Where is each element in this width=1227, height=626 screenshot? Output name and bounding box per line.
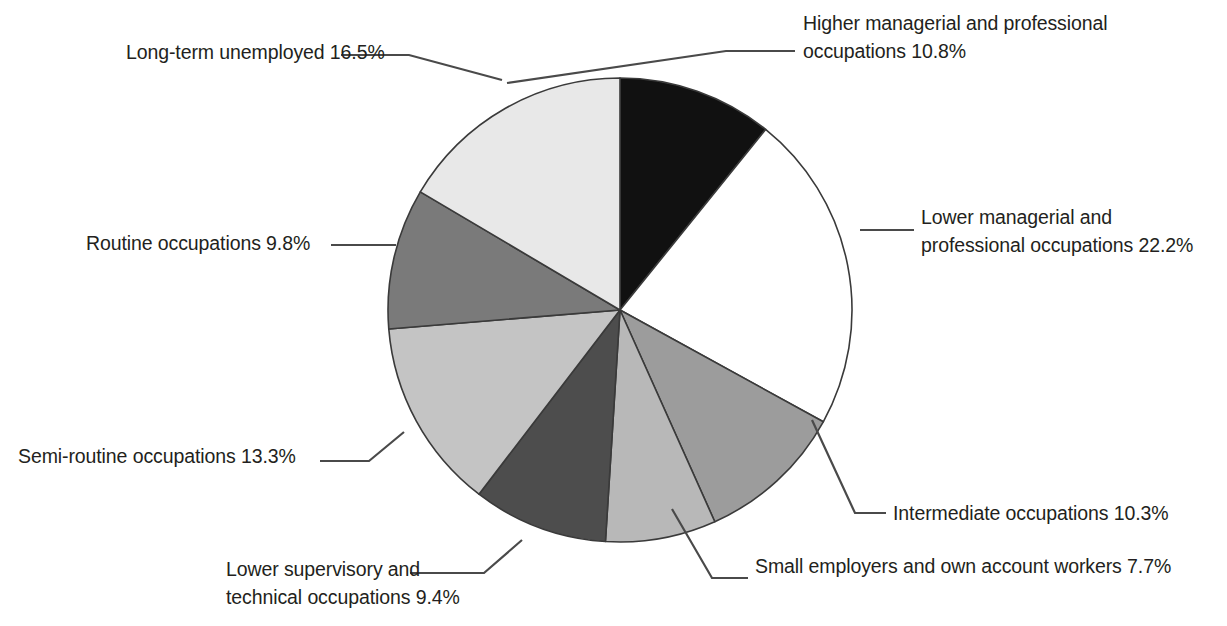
slice-label-long-term-unemployed: Long-term unemployed 16.5% <box>126 39 385 67</box>
pie-chart-svg <box>0 0 1227 626</box>
slice-label-routine: Routine occupations 9.8% <box>86 230 310 258</box>
leader-line-semi-routine <box>320 432 404 461</box>
slice-label-small-employers: Small employers and own account workers … <box>755 553 1171 581</box>
slice-label-intermediate: Intermediate occupations 10.3% <box>893 500 1169 528</box>
pie-slice-group <box>388 78 852 542</box>
slice-label-semi-routine: Semi-routine occupations 13.3% <box>18 443 296 471</box>
leader-line-intermediate <box>812 420 886 513</box>
leader-line-higher-managerial <box>507 51 795 83</box>
slice-label-lower-supervisory: Lower supervisory and technical occupati… <box>226 556 460 611</box>
slice-label-lower-managerial: Lower managerial and professional occupa… <box>921 204 1193 259</box>
pie-chart-figure: Higher managerial and professional occup… <box>0 0 1227 626</box>
slice-label-higher-managerial: Higher managerial and professional occup… <box>803 10 1107 65</box>
